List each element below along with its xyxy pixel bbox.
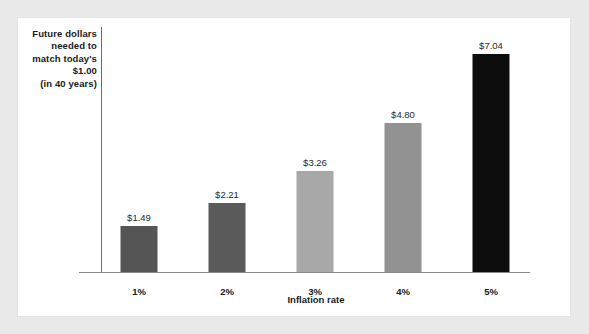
bar-value-label: $7.04 [479,40,503,51]
bar-value-label: $3.26 [303,157,327,168]
bar-value-label: $1.49 [127,212,151,223]
bar-value-label: $2.21 [215,189,239,200]
chart-panel: Future dollars needed to match today's $… [18,18,570,316]
y-axis-label: Future dollars needed to match today's $… [18,28,97,90]
bar-rect [385,123,422,272]
bar-group-1: $1.49 1% [102,27,176,272]
bar-group-5: $7.04 5% [454,27,528,272]
bar-rect [297,171,334,272]
y-axis-label-line-4: $1.00 [18,65,97,77]
bar-rect [209,203,246,272]
bar-group-4: $4.80 4% [366,27,440,272]
y-axis-label-line-5: (in 40 years) [18,78,97,90]
bar-group-2: $2.21 2% [190,27,264,272]
bar-rect [121,226,158,272]
x-axis-label: Inflation rate [102,294,530,305]
plot-area: $1.49 1% $2.21 2% $3.26 3% $4.80 4% $7.0… [102,27,530,272]
bar-value-label: $4.80 [391,109,415,120]
y-axis-label-line-1: Future dollars [18,28,97,40]
x-axis-line [79,272,530,273]
bar-group-3: $3.26 3% [278,27,352,272]
bar-rect [473,54,510,272]
y-axis-label-line-3: match today's [18,53,97,65]
y-axis-label-line-2: needed to [18,40,97,52]
